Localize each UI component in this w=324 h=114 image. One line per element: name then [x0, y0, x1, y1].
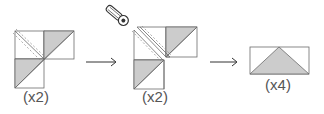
arrow-2 [210, 58, 237, 66]
step-1-block [15, 31, 74, 88]
arrow-1 [86, 58, 116, 66]
step-1-count-label: (x2) [11, 89, 61, 105]
step-2-block [134, 27, 197, 89]
step-3-count-label: (x4) [253, 77, 303, 93]
step-3-flying-geese [250, 47, 309, 74]
rotary-cutter-icon [104, 3, 130, 27]
step-2-count-label: (x2) [130, 89, 180, 105]
diagram: (x2) (x2) (x4) [0, 0, 324, 114]
